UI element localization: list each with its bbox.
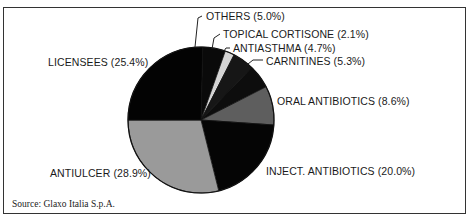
label-topical-cortisone: TOPICAL CORTISONE (2.1%) bbox=[223, 28, 369, 40]
label-others: OTHERS (5.0%) bbox=[206, 10, 285, 22]
label-inject-antibiotics: INJECT. ANTIBIOTICS (20.0%) bbox=[266, 165, 415, 177]
label-antiasthma: ANTIASTHMA (4.7%) bbox=[233, 42, 336, 54]
label-licensees: LICENSEES (25.4%) bbox=[48, 56, 148, 68]
label-antiulcer: ANTIULCER (28.9%) bbox=[50, 167, 151, 179]
label-carnitines: CARNITINES (5.3%) bbox=[266, 55, 365, 67]
leader-line-others bbox=[195, 16, 202, 47]
source-note: Source: Glaxo Italia S.p.A. bbox=[12, 199, 115, 209]
leader-line-antiasthma bbox=[224, 48, 230, 51]
leader-line-topical bbox=[212, 34, 220, 49]
leader-line-carnitines bbox=[248, 60, 263, 64]
label-oral-antibiotics: ORAL ANTIBIOTICS (8.6%) bbox=[277, 95, 410, 107]
